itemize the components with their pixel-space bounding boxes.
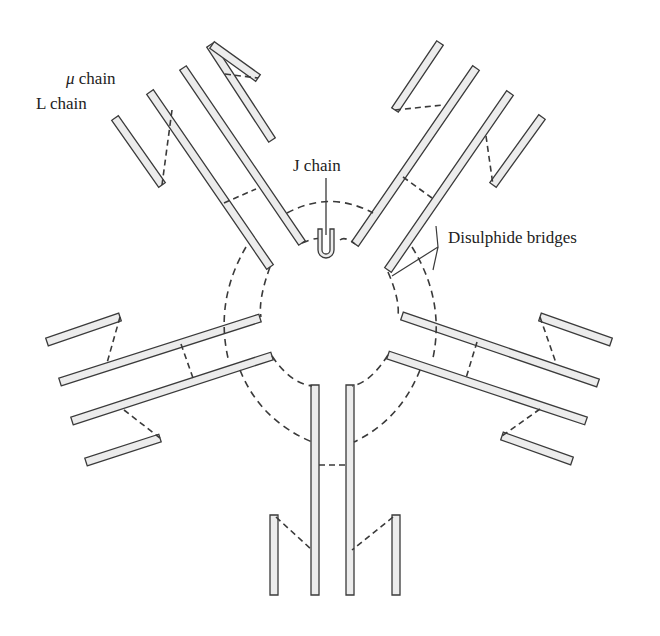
bridge-r-inner-bridge [502,409,540,436]
arc-br-inner-arc [352,355,388,386]
arc-bl-inner-arc [272,356,312,386]
arc-br-outer-arc [354,370,420,442]
chain-ul-light-inner [112,116,166,188]
chain-b-light-left [270,515,278,595]
chain-ul-heavy-outer [207,43,276,142]
chain-r-heavy-b [387,351,588,425]
arc-ur-left-arc [388,272,398,316]
bridge-ur-hh-bridge [403,177,432,198]
chain-l-light-inner [85,434,161,466]
chain-l-light-outer [46,313,122,346]
chain-ur-light-inner [490,115,545,188]
bridge-l-inner-bridge [124,410,160,438]
mu-symbol: μ [66,69,75,88]
immunoglobulin-m-pentamer-diagram [0,0,660,636]
disulphide-bridges-label: Disulphide bridges [448,229,577,246]
disulphide-bridges [107,74,556,550]
j-chain-label: J chain [293,157,341,174]
disulphide-pointer-1 [433,247,438,270]
bridge-b-right-bridge [352,517,393,550]
chain-ur-light-outer [392,41,444,112]
bridge-ul-hh-bridge [224,189,256,203]
bridge-b-left-bridge [276,517,312,550]
bridge-r-hh-bridge [466,342,477,378]
j-chain [318,178,334,258]
chain-r-light-outer [539,313,613,346]
arc-top-arc [287,202,373,214]
chain-b-heavy-a [311,385,319,595]
mu-chain-label: μ chain [66,70,116,87]
arc-ur-right-arc [412,247,436,358]
mu-chain-text: chain [75,69,116,88]
arc-ul-left-arc [224,247,246,358]
polypeptide-chains [46,41,613,595]
l-chain-label: L chain [36,95,87,112]
chain-r-light-inner [501,432,574,465]
chain-l-heavy-b [71,352,273,425]
bridge-l-hh-bridge [181,344,193,378]
chain-ur-heavy-a [352,66,480,247]
bridge-ur-inner-bridge [486,136,493,185]
chain-b-light-right [392,515,400,595]
arc-ul-right-arc [260,267,270,317]
arc-bl-outer-arc [240,370,312,442]
chain-b-heavy-b [346,385,354,595]
arc-top-inner-arc [302,239,355,244]
